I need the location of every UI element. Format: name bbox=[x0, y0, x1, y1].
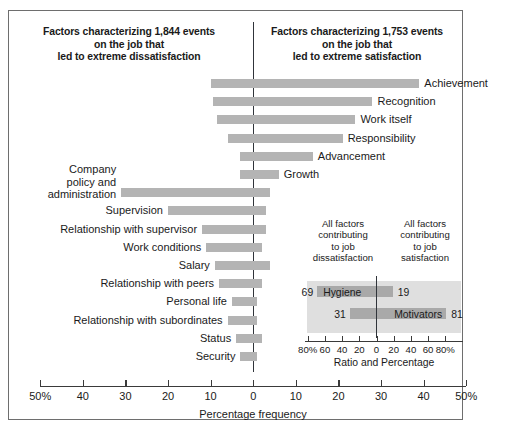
inset-x-tick-6 bbox=[411, 336, 412, 341]
x-axis-line bbox=[40, 386, 466, 387]
bar-label-supervision: Supervision bbox=[0, 205, 163, 216]
bar-label-work-itself: Work itself bbox=[360, 114, 411, 125]
bar-achievement bbox=[211, 79, 420, 88]
x-tick-0 bbox=[40, 380, 41, 386]
x-tick-label-4: 10 bbox=[191, 390, 231, 402]
x-tick-label-10: 50% bbox=[446, 390, 486, 402]
heading-satisfaction-line2: on the job that bbox=[258, 39, 456, 52]
bar-growth bbox=[240, 170, 278, 179]
x-tick-9 bbox=[424, 380, 425, 386]
x-tick-7 bbox=[338, 380, 339, 386]
bar-label-personal-life: Personal life bbox=[0, 296, 227, 307]
heading-dissatisfaction: Factors characterizing 1,844 events on t… bbox=[18, 26, 240, 64]
x-tick-label-6: 10 bbox=[276, 390, 316, 402]
inset-x-tick-2 bbox=[342, 336, 343, 341]
bar-label-work-conditions: Work conditions bbox=[0, 242, 201, 253]
inset-header-left-line1: All factors bbox=[305, 218, 381, 229]
x-tick-label-5: 0 bbox=[233, 390, 273, 402]
bar-personal-life bbox=[232, 297, 258, 306]
inset-x-tick-label-8: 80% bbox=[432, 344, 458, 355]
bar-work-conditions bbox=[206, 243, 261, 252]
bar-label-relationship-with-subordinates: Relationship with subordinates bbox=[0, 315, 223, 326]
inset-x-axis-title: Ratio and Percentage bbox=[305, 357, 463, 368]
heading-satisfaction-line1: Factors characterizing 1,753 events bbox=[258, 26, 456, 39]
bar-advancement bbox=[240, 152, 312, 161]
x-tick-10 bbox=[466, 380, 467, 386]
bar-supervision bbox=[168, 206, 266, 215]
bar-label-status: Status bbox=[0, 333, 231, 344]
bar-label-security: Security bbox=[0, 351, 235, 362]
inset-value-right-hygiene: 19 bbox=[398, 287, 410, 298]
bar-relationship-with-supervisor bbox=[202, 225, 266, 234]
inset-header-right-line2: contributing bbox=[387, 229, 463, 240]
inset-header-left-line2: contributing bbox=[305, 229, 381, 240]
bar-label-salary: Salary bbox=[0, 260, 210, 271]
bar-label-growth: Growth bbox=[284, 169, 319, 180]
inset-header-dissatisfaction: All factors contributing to job dissatis… bbox=[305, 218, 381, 264]
bar-relationship-with-peers bbox=[219, 279, 262, 288]
inset-value-left-hygiene: 69 bbox=[299, 287, 313, 298]
inset-x-tick-8 bbox=[445, 336, 446, 341]
x-tick-label-0: 50% bbox=[20, 390, 60, 402]
bar-label-advancement: Advancement bbox=[318, 151, 385, 162]
bar-security bbox=[240, 352, 257, 361]
x-tick-5 bbox=[253, 380, 254, 386]
heading-dissatisfaction-line1: Factors characterizing 1,844 events bbox=[18, 26, 240, 39]
x-tick-8 bbox=[381, 380, 382, 386]
inset-x-tick-3 bbox=[359, 336, 360, 341]
inset-x-tick-1 bbox=[325, 336, 326, 341]
bar-responsibility bbox=[228, 134, 343, 143]
inset-zero-axis-line bbox=[376, 276, 377, 338]
inset-panel: All factors contributing to job dissatis… bbox=[305, 218, 463, 370]
inset-header-right-line1: All factors bbox=[387, 218, 463, 229]
inset-x-tick-0 bbox=[308, 336, 309, 341]
bar-label-company-policy-and-administration: Companypolicy andadministration bbox=[0, 163, 116, 200]
inset-value-right-motivators: 81 bbox=[451, 309, 463, 320]
bar-work-itself bbox=[217, 115, 355, 124]
inset-x-axis-line bbox=[305, 341, 463, 342]
x-tick-4 bbox=[211, 380, 212, 386]
x-tick-label-3: 20 bbox=[148, 390, 188, 402]
x-tick-3 bbox=[168, 380, 169, 386]
x-tick-1 bbox=[83, 380, 84, 386]
bar-salary bbox=[215, 261, 270, 270]
bar-label-relationship-with-peers: Relationship with peers bbox=[0, 278, 214, 289]
inset-header-left-line3: to job bbox=[305, 241, 381, 252]
x-tick-label-9: 40 bbox=[404, 390, 444, 402]
inset-x-tick-5 bbox=[394, 336, 395, 341]
bar-label-relationship-with-supervisor: Relationship with supervisor bbox=[0, 224, 197, 235]
x-tick-label-1: 40 bbox=[63, 390, 103, 402]
inset-x-tick-4 bbox=[377, 336, 378, 341]
bar-company-policy-and-administration bbox=[121, 188, 270, 197]
heading-dissatisfaction-line2: on the job that bbox=[18, 39, 240, 52]
x-tick-6 bbox=[296, 380, 297, 386]
heading-dissatisfaction-line3: led to extreme dissatisfaction bbox=[18, 51, 240, 64]
bar-status bbox=[236, 334, 262, 343]
inset-bar-name-motivators: Motivators bbox=[394, 309, 442, 320]
inset-header-right-line3: to job bbox=[387, 241, 463, 252]
bar-label-responsibility: Responsibility bbox=[348, 133, 416, 144]
heading-satisfaction-line3: led to extreme satisfaction bbox=[258, 51, 456, 64]
bar-label-recognition: Recognition bbox=[377, 96, 435, 107]
inset-bar-name-hygiene: Hygiene bbox=[323, 287, 361, 298]
inset-value-left-motivators: 31 bbox=[332, 309, 346, 320]
x-tick-label-2: 30 bbox=[105, 390, 145, 402]
bar-label-achievement: Achievement bbox=[424, 78, 488, 89]
inset-header-satisfaction: All factors contributing to job satisfac… bbox=[387, 218, 463, 264]
inset-header-left-line4: dissatisfaction bbox=[305, 252, 381, 263]
x-tick-2 bbox=[125, 380, 126, 386]
heading-satisfaction: Factors characterizing 1,753 events on t… bbox=[258, 26, 456, 64]
x-tick-label-7: 20 bbox=[318, 390, 358, 402]
x-tick-label-8: 30 bbox=[361, 390, 401, 402]
inset-x-tick-7 bbox=[428, 336, 429, 341]
chart-canvas: Factors characterizing 1,844 events on t… bbox=[0, 0, 506, 433]
bar-recognition bbox=[213, 97, 373, 106]
inset-header-right-line4: satisfaction bbox=[387, 252, 463, 263]
bar-relationship-with-subordinates bbox=[228, 316, 258, 325]
x-axis-title: Percentage frequency bbox=[153, 408, 353, 420]
